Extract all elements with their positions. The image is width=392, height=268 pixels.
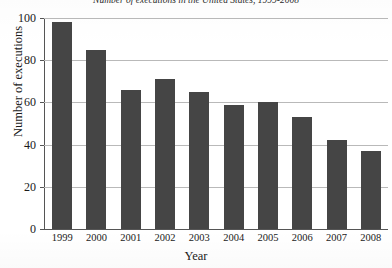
y-axis-title: Number of executions — [11, 8, 26, 156]
x-axis-line — [44, 229, 388, 230]
bar-slot — [148, 18, 182, 229]
chart-title: Number of executions in the United State… — [0, 0, 392, 5]
x-axis-title: Year — [0, 249, 392, 264]
x-tick-label: 2002 — [148, 232, 182, 244]
bar-slot — [79, 18, 113, 229]
y-tick-label: 20 — [0, 181, 36, 193]
x-tick-label: 2007 — [319, 232, 353, 244]
bar-2008[interactable] — [361, 151, 381, 229]
bar-1999[interactable] — [52, 22, 72, 229]
bar-chart-figure: Number of executions in the United State… — [0, 0, 392, 268]
bar-2001[interactable] — [121, 90, 141, 229]
x-tick-label: 2004 — [216, 232, 250, 244]
bar-slot — [216, 18, 250, 229]
x-tick-labels-group: 1999200020012002200320042005200620072008 — [45, 232, 388, 244]
bar-slot — [251, 18, 285, 229]
y-tick-label: 100 — [0, 12, 36, 24]
y-tick-mark-20 — [40, 187, 44, 188]
bar-2002[interactable] — [155, 79, 175, 229]
bar-slot — [285, 18, 319, 229]
x-tick-label: 1999 — [45, 232, 79, 244]
bar-2005[interactable] — [258, 102, 278, 229]
y-tick-label: 60 — [0, 96, 36, 108]
bar-slot — [354, 18, 388, 229]
x-tick-label: 2000 — [79, 232, 113, 244]
y-tick-label: 40 — [0, 139, 36, 151]
bar-slot — [182, 18, 216, 229]
y-tick-mark-80 — [40, 60, 44, 61]
plot-area: 020406080100 — [44, 18, 388, 230]
bar-2000[interactable] — [86, 50, 106, 229]
x-tick-label: 2008 — [354, 232, 388, 244]
y-tick-mark-100 — [40, 18, 44, 19]
x-tick-label: 2006 — [285, 232, 319, 244]
x-tick-label: 2001 — [114, 232, 148, 244]
x-tick-label: 2003 — [182, 232, 216, 244]
bar-slot — [45, 18, 79, 229]
bar-slot — [114, 18, 148, 229]
x-tick-label: 2005 — [251, 232, 285, 244]
bar-2003[interactable] — [189, 92, 209, 229]
y-tick-mark-0 — [40, 229, 44, 230]
bar-2004[interactable] — [224, 105, 244, 229]
bar-2007[interactable] — [327, 140, 347, 229]
y-tick-label: 80 — [0, 54, 36, 66]
bar-2006[interactable] — [292, 117, 312, 229]
bars-group — [45, 18, 388, 229]
y-tick-mark-60 — [40, 102, 44, 103]
y-tick-label: 0 — [0, 223, 36, 235]
bar-slot — [319, 18, 353, 229]
y-tick-mark-40 — [40, 145, 44, 146]
